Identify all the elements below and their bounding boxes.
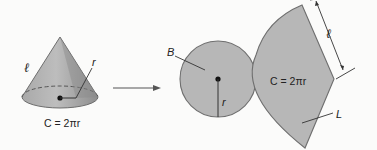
cone-shape — [22, 37, 98, 108]
cone-net-diagram: ℓ r C = 2πr B r ℓ C = 2πr L — [0, 0, 377, 150]
sector-slant-label: ℓ — [326, 27, 331, 40]
circle-radius-label: r — [222, 97, 226, 108]
circle-area-label: B — [167, 47, 174, 58]
sector-arc-length-label: C = 2πr — [270, 76, 306, 87]
arrow-icon — [113, 85, 161, 91]
base-circle-shape — [175, 41, 256, 117]
cone-circumference-label: C = 2πr — [44, 118, 80, 129]
cone-radius-label: r — [92, 57, 96, 68]
sector-area-label: L — [336, 109, 342, 120]
cone-slant-label: ℓ — [24, 61, 29, 74]
